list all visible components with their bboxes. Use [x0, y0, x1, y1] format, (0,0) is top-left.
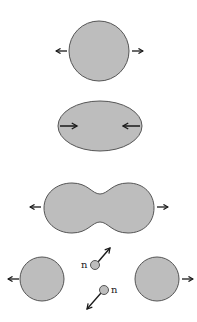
- stage-elongated: [58, 101, 142, 151]
- stage-dumbbell: [30, 183, 168, 233]
- neutron-upper: n: [81, 248, 110, 270]
- neutron-label: n: [81, 259, 88, 270]
- neutron-label: n: [111, 284, 118, 295]
- stage-nucleus: [56, 21, 143, 81]
- neutron-circle: [91, 261, 100, 270]
- dumbbell-nucleus: [44, 183, 154, 233]
- nucleus-circle: [69, 21, 129, 81]
- neutron-circle: [100, 286, 109, 295]
- fragment-left: [20, 257, 64, 301]
- neutron-lower: n: [87, 284, 118, 309]
- fragment-right: [135, 257, 179, 301]
- fission-diagram: n n: [0, 0, 197, 322]
- neutron-arrow-icon: [87, 293, 101, 309]
- stage-fragments: n n: [8, 248, 193, 309]
- neutron-arrow-icon: [98, 248, 110, 262]
